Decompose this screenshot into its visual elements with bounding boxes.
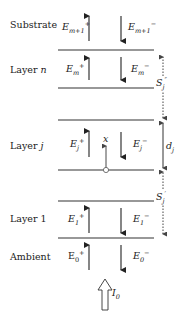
region-label-substrate: Substrate <box>10 19 57 30</box>
region-label-ambient: Ambient <box>10 251 51 262</box>
region-label-layer-1: Layer 1 <box>10 213 47 224</box>
field-backward-ambient: E0− <box>133 249 150 264</box>
matrix-label-s-prime: Sj′ <box>156 190 166 205</box>
position-x-label: x <box>103 133 108 144</box>
field-forward-ambient: E0+ <box>68 249 85 264</box>
incident-arrow-icon <box>98 279 112 310</box>
incident-label-i0: I0 <box>112 287 120 301</box>
field-backward-substrate: Em+1− <box>128 20 156 35</box>
field-backward-layer-j: Ej− <box>133 137 147 152</box>
field-forward-substrate: Em+1+ <box>62 20 90 35</box>
field-backward-layer-n: Em− <box>131 62 150 77</box>
diagram-lines <box>0 0 185 325</box>
region-label-layer-n: Layer n <box>10 64 47 75</box>
field-forward-layer-j: Ej+ <box>70 137 84 152</box>
region-label-layer-j: Layer j <box>10 140 43 151</box>
matrix-label-s-double-prime: Sj″ <box>156 76 167 91</box>
field-backward-layer-1: E1− <box>133 212 150 227</box>
field-forward-layer-n: Em+ <box>66 62 85 77</box>
field-forward-layer-1: E1+ <box>68 212 85 227</box>
thickness-label-dj: dj <box>166 140 174 154</box>
position-x-arrow <box>103 146 108 173</box>
